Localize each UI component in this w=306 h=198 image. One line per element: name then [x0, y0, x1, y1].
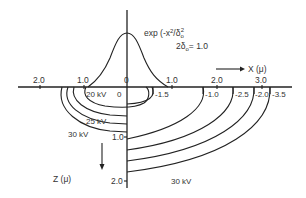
- x-tick-label: 3.0: [255, 75, 267, 85]
- x-tick-label: 1.0: [166, 75, 178, 85]
- voltage-label: 30 kV: [68, 130, 89, 139]
- z-tick-label: 2.0: [111, 176, 123, 186]
- contour-label: -1.5: [155, 90, 169, 99]
- z-tick-label: 1.0: [112, 132, 124, 142]
- contour-minus-1-5: [127, 87, 153, 104]
- contour-label: -2.5: [235, 90, 249, 99]
- contour-label: -1.0: [205, 90, 219, 99]
- x-tick-label: 1.0: [77, 75, 89, 85]
- x-axis-label: X (μ): [248, 64, 267, 74]
- beam-width-param: 2δo= 1.0: [176, 41, 208, 52]
- contour-label: -2.0: [255, 90, 269, 99]
- contour-label: -3.5: [272, 90, 286, 99]
- contour-label: 0: [117, 90, 122, 99]
- voltage-label: 30 kV: [171, 177, 192, 186]
- formula-label: exp (-x2/δo2: [144, 27, 185, 39]
- energy-deposition-diagram: 2.0 1.0 0 1.0 2.0 3.0 1.0 2.0 exp (-x2/δ…: [0, 0, 306, 198]
- arrow-head-icon: [240, 67, 245, 72]
- x-tick-label: 2.0: [211, 75, 223, 85]
- voltage-label: 20 kV: [86, 90, 107, 99]
- z-axis-label: Z (μ): [53, 174, 71, 184]
- voltage-label: 25 kV: [86, 117, 107, 126]
- x-tick-label: 0: [124, 75, 129, 85]
- x-tick-label: 2.0: [33, 75, 45, 85]
- arrow-head-icon: [100, 164, 105, 170]
